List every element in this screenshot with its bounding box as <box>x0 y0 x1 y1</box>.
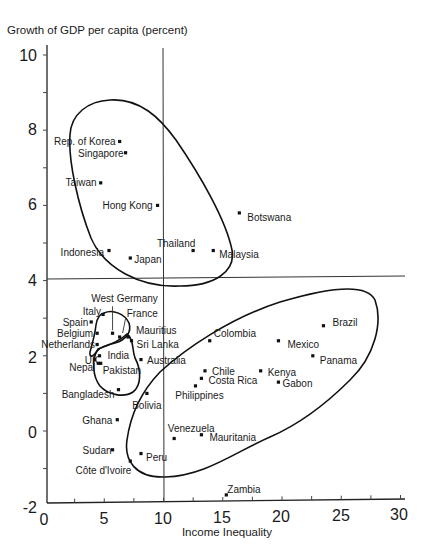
point-label: Philippines <box>175 390 223 401</box>
point-label: Venezuela <box>168 423 215 434</box>
data-point: Brazil <box>322 317 358 328</box>
point-label: Japan <box>134 254 161 265</box>
point-marker <box>118 335 121 338</box>
point-marker <box>130 339 133 342</box>
data-point: Venezuela <box>168 423 215 441</box>
point-label: Indonesia <box>61 247 105 258</box>
point-marker <box>129 256 132 259</box>
point-marker <box>145 392 148 395</box>
chart-title: Growth of GDP per capita (percent) <box>7 24 188 36</box>
point-marker <box>111 332 114 335</box>
point-marker <box>101 313 104 316</box>
point-label: Sudan <box>83 445 112 456</box>
data-point: Pakistan <box>99 362 141 377</box>
point-label: Taiwan <box>66 177 97 188</box>
point-marker <box>129 459 132 462</box>
point-marker <box>238 211 241 214</box>
data-point: Mexico <box>277 339 320 350</box>
x-tick-label: 5 <box>100 510 109 527</box>
point-label: Australia <box>147 355 186 366</box>
point-label: Brazil <box>332 317 357 328</box>
y-tick-label: 2 <box>28 349 37 366</box>
y-tick-label: -2 <box>23 499 37 516</box>
data-point: Bolivia <box>132 392 162 412</box>
x-tick-label: 25 <box>332 507 350 524</box>
data-point: Sri Lanka <box>130 339 179 350</box>
y-tick-label: 8 <box>28 121 37 138</box>
data-point: Kenya <box>259 367 296 378</box>
point-marker <box>96 343 99 346</box>
point-marker <box>277 381 280 384</box>
data-point: Singapore <box>78 148 127 159</box>
point-label: Sri Lanka <box>137 339 180 350</box>
point-marker <box>116 418 119 421</box>
x-axis-title: Income Inequality <box>182 526 272 538</box>
point-label: Gabon <box>282 378 312 389</box>
data-point: Rep. of Korea <box>54 136 121 147</box>
point-marker <box>117 388 120 391</box>
data-points: Rep. of KoreaSingaporeTaiwanHong KongBot… <box>41 136 357 496</box>
data-point: Costa Rica <box>200 375 258 386</box>
point-marker <box>208 339 211 342</box>
point-marker <box>90 320 93 323</box>
point-label: Rep. of Korea <box>54 136 116 147</box>
point-marker <box>173 437 176 440</box>
data-point: Ghana <box>82 415 119 426</box>
point-label: Hong Kong <box>103 200 153 211</box>
x-tick-labels: 0 5 10 15 20 25 30 <box>40 506 408 528</box>
data-point: Australia <box>139 355 186 366</box>
point-label: Netherlands <box>41 339 95 350</box>
point-marker <box>126 335 129 338</box>
x-tick-label: 10 <box>154 510 172 527</box>
data-point: Gabon <box>277 378 313 389</box>
data-point: Mauritius <box>126 325 176 339</box>
data-point: India <box>98 350 130 361</box>
data-point: Côte d'Ivoire <box>75 459 131 476</box>
data-point: Panama <box>311 354 357 366</box>
point-label: Ghana <box>82 415 112 426</box>
y-tick-labels: 10 8 6 4 2 0 -2 <box>19 47 37 516</box>
point-label: Italy <box>83 306 101 317</box>
point-label: West Germany <box>91 293 158 304</box>
point-label: Bangladesh <box>62 389 115 400</box>
scatter-chart: Growth of GDP per capita (percent) 10 8 … <box>0 0 428 548</box>
point-label: Nepal <box>69 362 95 373</box>
point-label: Pakistan <box>103 365 141 376</box>
point-label: Colombia <box>214 328 257 339</box>
point-label: Malaysia <box>219 249 259 260</box>
point-marker <box>139 358 142 361</box>
point-marker <box>200 433 203 436</box>
point-label: Thailand <box>157 238 195 249</box>
point-marker <box>322 324 325 327</box>
data-point: Netherlands <box>41 339 99 350</box>
point-label: Panama <box>320 355 358 366</box>
data-point: Hong Kong <box>103 200 160 211</box>
point-label: Mauritius <box>136 325 177 336</box>
x-tick-label: 0 <box>40 511 49 528</box>
point-label: India <box>108 350 130 361</box>
data-point: Indonesia <box>61 247 111 258</box>
data-point: Malaysia <box>212 249 259 260</box>
point-marker <box>200 377 203 380</box>
point-marker <box>107 249 110 252</box>
point-marker <box>259 369 262 372</box>
data-point: Zambia <box>225 484 261 497</box>
x-axis <box>47 499 405 503</box>
point-label: Botswana <box>247 212 291 223</box>
point-label: Kenya <box>268 367 297 378</box>
data-point: Nepal <box>69 362 100 374</box>
data-point: Peru <box>139 452 167 463</box>
point-marker <box>139 452 142 455</box>
data-point: Sudan <box>83 445 115 456</box>
point-marker <box>311 354 314 357</box>
point-label: Mauritania <box>209 432 256 443</box>
point-marker <box>212 249 215 252</box>
data-point: Philippines <box>175 384 223 401</box>
point-label: Bolivia <box>132 400 162 411</box>
point-marker <box>96 332 99 335</box>
y-tick-label: 0 <box>28 424 37 441</box>
vertical-reference-line <box>163 48 164 502</box>
data-point: Thailand <box>157 238 195 253</box>
point-label: Costa Rica <box>208 375 257 386</box>
point-label: Singapore <box>78 148 124 159</box>
